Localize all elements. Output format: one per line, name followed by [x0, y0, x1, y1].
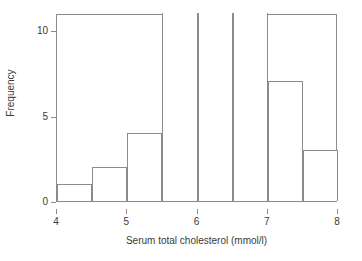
x-tick-label: 5 [114, 216, 138, 227]
x-tick-mark [56, 209, 57, 214]
y-tick-label: 10 [37, 26, 48, 36]
histogram-bar [233, 13, 268, 201]
x-tick-label: 7 [255, 216, 279, 227]
x-tick-mark [126, 209, 127, 214]
x-axis-title: Serum total cholesterol (mmol/l) [56, 235, 337, 246]
x-tick-mark [337, 209, 338, 214]
x-tick-mark [267, 209, 268, 214]
histogram-bar [162, 13, 197, 201]
histogram-bar [303, 150, 338, 201]
x-axis: 45678 Serum total cholesterol (mmol/l) [0, 202, 362, 261]
y-tick-label: 5 [42, 112, 48, 122]
histogram-bar [127, 133, 162, 201]
y-axis-title: Frequency [6, 53, 16, 133]
histogram-figure: Frequency 0510 45678 Serum total cholest… [0, 0, 362, 261]
x-tick-label: 8 [325, 216, 349, 227]
bar-series [57, 15, 336, 201]
histogram-bar [268, 81, 303, 201]
plot-area [56, 14, 337, 202]
histogram-bar [198, 13, 233, 201]
histogram-bar [92, 167, 127, 201]
x-tick-mark [197, 209, 198, 214]
x-tick-label: 4 [44, 216, 68, 227]
histogram-bar [57, 184, 92, 201]
x-tick-label: 6 [185, 216, 209, 227]
